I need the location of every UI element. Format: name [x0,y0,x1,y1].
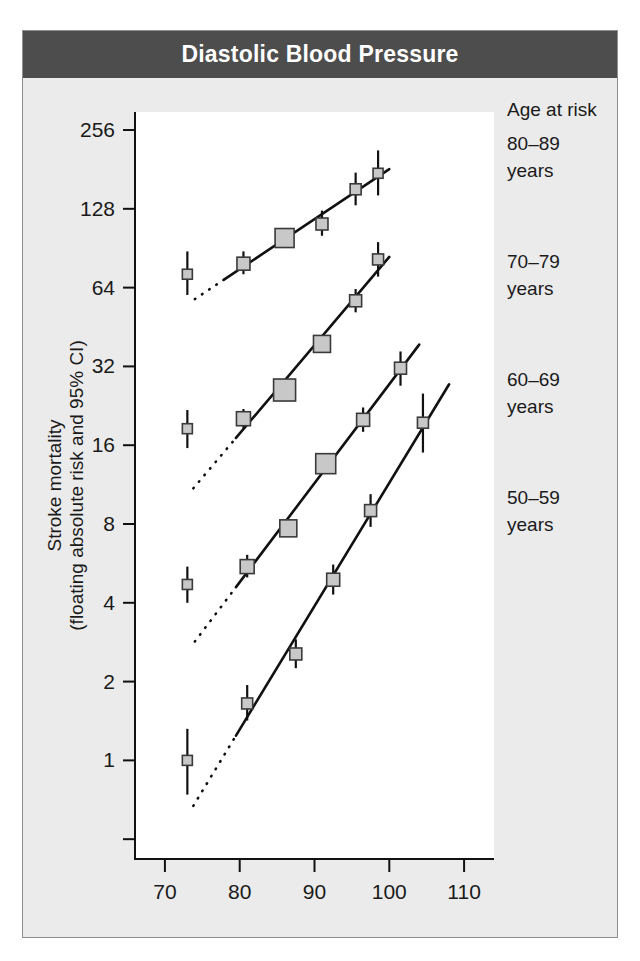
data-point-marker [275,229,294,248]
data-point-marker [417,417,428,428]
data-point-marker [373,168,383,178]
y-axis-tick-label: 64 [92,276,116,299]
legend-entry-units-1: years [507,160,553,181]
y-axis-tick-label: 8 [103,512,115,535]
legend-entry-units-3: years [507,396,553,417]
data-point-marker [357,413,370,426]
data-point-marker [290,648,302,660]
legend-entry-units-4: years [507,514,553,535]
y-axis-tick-label: 256 [80,118,115,141]
data-point-marker [365,505,377,517]
legend-entry-age-range-1: 80–89 [507,133,560,154]
legend-entry-units-2: years [507,278,553,299]
data-point-marker [350,184,361,195]
data-point-marker [242,698,253,709]
y-axis-tick-label: 32 [92,354,115,377]
data-point-marker [182,755,192,765]
y-axis-title-line2: (floating absolute risk and 95% CI) [66,340,87,630]
chart-plot-body: 1248163264128256708090100110Stroke morta… [23,78,617,939]
data-point-marker [182,424,192,434]
data-point-marker [274,379,296,401]
data-point-marker [395,362,407,374]
data-point-marker [237,257,250,270]
data-point-marker [236,412,250,426]
chart-title-bar: Diastolic Blood Pressure [23,31,617,78]
x-axis-title-line1: Usual diastolic blood [238,937,412,939]
data-point-marker [316,218,328,230]
legend-entry-age-range-4: 50–59 [507,487,560,508]
y-axis-title-line1: Stroke mortality [44,419,65,551]
x-axis-tick-label: 90 [303,880,326,903]
figure-panel: Diastolic Blood Pressure 124816326412825… [22,30,618,938]
data-point-marker [280,520,297,537]
legend-entry-age-range-2: 70–79 [507,251,560,272]
plot-area-background [135,112,494,859]
y-axis-tick-label: 16 [92,433,115,456]
y-axis-tick-label: 128 [80,197,115,220]
y-axis-tick-label: 2 [103,670,115,693]
x-axis-tick-label: 100 [372,880,407,903]
data-point-marker [240,560,254,574]
data-point-marker [373,254,384,265]
data-point-marker [182,579,192,589]
stroke-mortality-scatter-chart: 1248163264128256708090100110Stroke morta… [23,78,619,939]
data-point-marker [327,573,340,586]
data-point-marker [316,454,336,474]
data-point-marker [313,335,330,352]
x-axis-tick-label: 110 [447,880,480,903]
legend-entry-age-range-3: 60–69 [507,369,560,390]
data-point-marker [182,269,192,279]
y-axis-tick-label: 4 [103,591,115,614]
y-axis-tick-label: 1 [103,748,115,771]
x-axis-tick-label: 70 [153,880,176,903]
x-axis-tick-label: 80 [228,880,251,903]
chart-title: Diastolic Blood Pressure [181,41,458,68]
data-point-marker [350,295,362,307]
legend-heading: Age at risk [507,99,597,120]
